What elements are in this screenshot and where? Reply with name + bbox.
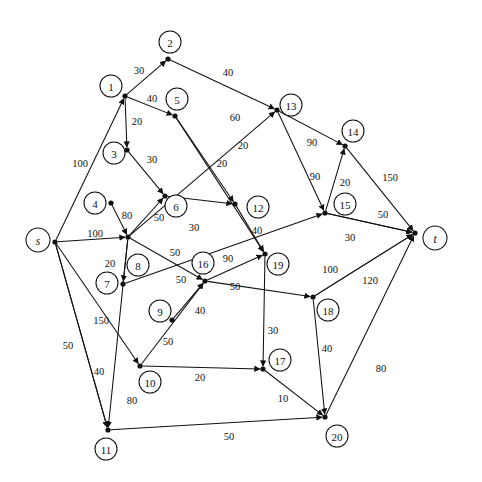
node-label-1: 1 <box>108 81 114 93</box>
edge-capacity-label: 50 <box>163 336 174 347</box>
node-label-8: 8 <box>135 260 141 272</box>
node-point-17 <box>260 366 265 371</box>
edge-17-to-20 <box>265 371 323 416</box>
node-point-19 <box>262 251 267 256</box>
node-point-20 <box>322 414 327 419</box>
node-label-20: 20 <box>332 431 344 443</box>
edge-capacity-label: 20 <box>195 372 206 383</box>
edge-capacity-label: 100 <box>322 264 338 275</box>
node-point-12 <box>232 201 237 206</box>
node-label-18: 18 <box>323 305 335 317</box>
node-point-7 <box>120 281 125 286</box>
edge-capacity-label: 80 <box>376 363 387 374</box>
node-label-7: 7 <box>104 278 110 290</box>
edge-19-to-17 <box>263 256 265 366</box>
node-label-16: 16 <box>198 258 210 270</box>
node-point-8 <box>125 234 130 239</box>
edge-capacity-label: 100 <box>87 228 103 239</box>
diagram-canvas: 1001001505040304020403020208050306020508… <box>0 0 482 482</box>
node-point-16 <box>202 278 207 283</box>
edge-capacity-label: 20 <box>217 158 228 169</box>
edge-capacity-label: 20 <box>340 177 351 188</box>
node-label-6: 6 <box>173 201 179 213</box>
edge-capacity-label: 40 <box>252 225 263 236</box>
edge-16-to-19 <box>207 255 262 280</box>
edge-capacity-label: 120 <box>362 275 378 286</box>
node-label-3: 3 <box>111 148 117 160</box>
edge-capacity-label: 20 <box>132 116 143 127</box>
edge-capacity-label: 20 <box>238 140 249 151</box>
edge-capacity-label: 80 <box>122 210 133 221</box>
edge-s-to-1 <box>56 99 124 240</box>
edge-capacity-label: 90 <box>310 171 321 182</box>
edge-capacity-label: 150 <box>93 315 109 326</box>
edge-capacity-label: 80 <box>127 395 138 406</box>
edge-20-to-t <box>326 236 414 415</box>
edge-s-to-11 <box>56 244 108 427</box>
edge-capacity-label: 10 <box>278 393 289 404</box>
node-label-19: 19 <box>273 259 285 271</box>
node-label-13: 13 <box>286 100 298 112</box>
node-label-9: 9 <box>157 306 163 318</box>
node-point-15 <box>322 210 327 215</box>
edge-capacity-label: 30 <box>268 325 279 336</box>
edge-capacity-label: 40 <box>94 366 105 377</box>
node-point-1 <box>122 93 127 98</box>
edge-capacity-label: 50 <box>230 281 241 292</box>
node-label-s: s <box>36 235 41 247</box>
edge-capacity-label: 100 <box>72 158 88 169</box>
node-point-14 <box>342 143 347 148</box>
node-label-5: 5 <box>174 94 180 106</box>
edge-13-to-15 <box>278 112 324 210</box>
node-point-2 <box>165 56 170 61</box>
node-point-6 <box>162 193 167 198</box>
edge-capacity-label: 20 <box>105 258 116 269</box>
node-point-11 <box>105 427 110 432</box>
edge-capacity-label: 90 <box>307 137 318 148</box>
edge-11-to-20 <box>110 417 322 430</box>
edge-capacity-label: 30 <box>134 65 145 76</box>
edge-capacity-label: 40 <box>223 67 234 78</box>
node-label-2: 2 <box>167 37 173 49</box>
edge-capacity-label: 150 <box>382 172 398 183</box>
edge-capacity-label: 30 <box>189 222 200 233</box>
edge-1-to-3 <box>125 98 127 147</box>
edge-1-to-2 <box>127 61 166 94</box>
edge-capacity-label: 50 <box>378 209 389 220</box>
edge-capacity-label: 90 <box>223 253 234 264</box>
edge-capacity-label: 50 <box>224 431 235 442</box>
edge-capacity-label: 50 <box>63 340 74 351</box>
edge-15-to-t <box>327 214 412 233</box>
node-point-t <box>412 230 417 235</box>
edge-capacity-label: 50 <box>170 247 181 258</box>
edge-capacity-label: 40 <box>195 305 206 316</box>
edge-capacity-label: 60 <box>230 112 241 123</box>
edge-capacity-label: 30 <box>147 154 158 165</box>
edge-16-to-18 <box>207 281 310 296</box>
node-point-5 <box>172 113 177 118</box>
node-label-15: 15 <box>340 199 352 211</box>
edge-capacity-label: 50 <box>176 274 187 285</box>
node-label-14: 14 <box>348 126 360 138</box>
node-label-12: 12 <box>253 202 264 214</box>
nodes-layer: st1234567891011121314151617181920 <box>26 31 447 460</box>
edge-capacity-label: 30 <box>345 232 356 243</box>
edge-10-to-16 <box>142 283 204 364</box>
node-point-4 <box>108 200 113 205</box>
node-point-13 <box>274 107 279 112</box>
edge-capacity-label: 40 <box>322 343 333 354</box>
node-point-10 <box>137 363 142 368</box>
edge-capacity-label: 50 <box>154 212 165 223</box>
network-diagram: 1001001505040304020403020208050306020508… <box>0 0 482 482</box>
node-point-s <box>52 239 57 244</box>
edge-capacity-label: 40 <box>147 93 158 104</box>
node-point-9 <box>169 317 174 322</box>
node-label-17: 17 <box>275 355 287 367</box>
node-label-10: 10 <box>145 377 157 389</box>
node-label-4: 4 <box>92 198 98 210</box>
node-label-11: 11 <box>101 444 112 456</box>
edge-10-to-17 <box>142 366 260 369</box>
node-point-18 <box>310 294 315 299</box>
